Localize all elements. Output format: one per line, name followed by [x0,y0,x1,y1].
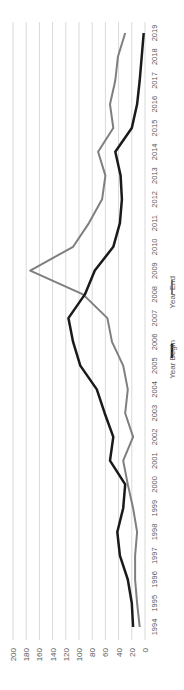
y-tick-label: 180 [22,647,31,661]
x-tick-label: 2005 [150,357,159,374]
x-tick-label: 2004 [150,381,159,398]
series-lines [30,33,144,627]
legend-label-year-begin: Year Begin [168,340,177,379]
x-tick-label: 2014 [150,143,159,160]
x-tick-label: 2006 [150,334,159,351]
x-tick-label: 2012 [150,191,159,208]
x-tick-label: 2018 [150,48,159,65]
y-tick-label: 120 [62,647,71,661]
x-tick-label: 2010 [150,238,159,255]
legend-item-year-begin: Year Begin [168,340,177,379]
y-tick-label: 160 [35,647,44,661]
x-tick-label: 2016 [150,96,159,113]
y-axis-tick-labels: 020406080100120140160180200 [9,647,150,661]
y-tick-label: 20 [128,647,137,656]
x-tick-label: 2009 [150,262,159,279]
x-tick-label: 1995 [150,595,159,612]
x-tick-label: 2001 [150,452,159,469]
x-tick-label: 2019 [150,25,159,42]
x-tick-label: 2008 [150,286,159,303]
x-axis-tick-labels: 1994199519961997199819992000200120022003… [150,25,159,636]
x-tick-label: 2017 [150,72,159,89]
x-tick-label: 2007 [150,310,159,327]
series-line-year-begin [68,33,143,627]
y-tick-label: 100 [75,647,84,661]
x-tick-label: 2013 [150,167,159,184]
x-tick-label: 1996 [150,571,159,588]
x-tick-label: 1994 [150,619,159,636]
x-tick-label: 2000 [150,476,159,493]
y-tick-label: 0 [141,647,150,652]
gridlines [13,22,145,640]
y-tick-label: 60 [101,647,110,656]
x-tick-label: 1998 [150,524,159,541]
series-line-year-end [30,33,140,627]
y-tick-label: 80 [88,647,97,656]
x-tick-label: 2002 [150,429,159,446]
y-tick-label: 200 [9,647,18,661]
y-tick-label: 40 [115,647,124,656]
legend-item-year-end: Year End [168,276,177,309]
x-tick-label: 1999 [150,500,159,517]
y-tick-label: 140 [49,647,58,661]
x-tick-label: 1997 [150,547,159,564]
legend-label-year-end: Year End [168,276,177,309]
line-chart: 020406080100120140160180200 199419951996… [0,0,184,690]
x-tick-label: 2015 [150,120,159,137]
x-tick-label: 2003 [150,405,159,422]
x-tick-label: 2011 [150,215,159,231]
legend: Year Begin Year End [168,276,177,379]
